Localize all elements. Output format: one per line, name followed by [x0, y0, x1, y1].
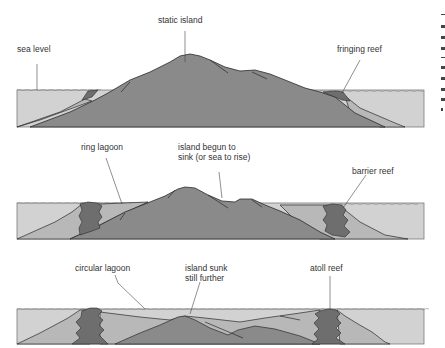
leader-circular-lagoon — [115, 275, 145, 309]
panel-sinking-island: ring lagoon island begun to sink (or sea… — [17, 142, 424, 239]
label-island-sinking-line1: island begun to — [178, 142, 236, 152]
label-circular-lagoon: circular lagoon — [75, 263, 131, 273]
leader-island-sinking — [219, 172, 222, 198]
label-atoll-reef: atoll reef — [310, 263, 343, 273]
label-island-sunk-line2: still further — [185, 273, 224, 283]
cropped-text-fragment — [441, 88, 445, 91]
label-sea-level: sea level — [17, 44, 51, 54]
cropped-text-fragment — [441, 98, 445, 101]
label-island-sinking-line2: sink (or sea to rise) — [178, 152, 250, 162]
cropped-text-fragment — [441, 36, 445, 39]
cropped-text-fragment — [441, 108, 443, 111]
label-fringing-reef: fringing reef — [337, 44, 383, 54]
cropped-text-fragment — [441, 47, 445, 50]
cropped-text-fragment — [441, 66, 445, 69]
cropped-text-fragment — [441, 57, 445, 58]
cropped-text-fragment — [441, 25, 445, 28]
leader-fringing-reef — [342, 60, 360, 93]
label-static-island: static island — [158, 15, 203, 25]
panel-static-island: sea level static island fringing reef — [17, 15, 424, 127]
panel-atoll: circular lagoon island sunk still furthe… — [17, 263, 429, 344]
leader-ring-lagoon — [106, 158, 122, 204]
atoll-formation-diagram: sea level static island fringing reef ri… — [0, 0, 445, 348]
label-island-sunk-line1: island sunk — [185, 263, 228, 273]
label-barrier-reef: barrier reef — [352, 166, 394, 176]
label-ring-lagoon: ring lagoon — [81, 142, 123, 152]
cropped-text-fragment — [441, 77, 445, 80]
cropped-text-fragment — [441, 14, 445, 15]
